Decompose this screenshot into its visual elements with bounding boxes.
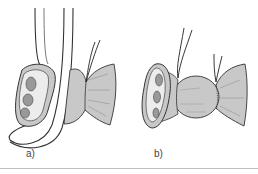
surgical-illustration-figure: a) b): [0, 0, 258, 174]
panel-a-label: a): [26, 148, 35, 159]
panel-a-drawing: [9, 8, 116, 148]
bottom-divider: [0, 168, 258, 169]
illustration-canvas: [0, 0, 258, 174]
panel-b-label: b): [154, 148, 163, 159]
panel-b-drawing: [142, 28, 247, 128]
